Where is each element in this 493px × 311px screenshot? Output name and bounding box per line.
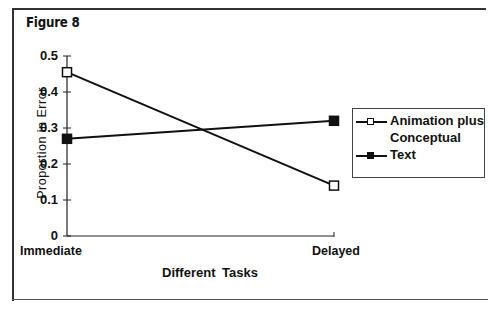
x-category-immediate: Immediate [20,244,82,258]
filled-square-marker-icon [63,134,72,143]
open-square-marker-icon [63,68,72,77]
filled-square-marker-icon [330,116,339,125]
open-square-marker-icon [367,118,374,125]
x-axis-label: Different Tasks [140,265,280,280]
axes [63,56,334,237]
x-category-delayed: Delayed [312,244,360,258]
legend: Animation plus Conceptual Text [352,108,485,178]
y-tick-label: 0.5 [40,48,58,63]
legend-label: Animation plus [390,113,484,129]
y-tick-label: 0 [51,228,58,243]
series-lines [63,68,339,190]
open-square-marker-icon [330,181,339,190]
legend-label: Text [390,147,416,163]
series-line [67,121,334,139]
legend-label-line2: Conceptual [390,130,461,146]
filled-square-marker-icon [367,152,374,159]
y-axis-label: Proportion in Error [35,83,49,203]
